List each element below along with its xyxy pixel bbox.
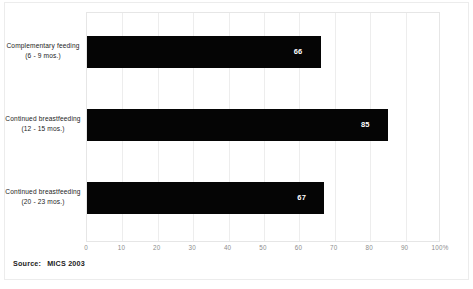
category-label-line1: Continued breastfeeding xyxy=(5,115,80,122)
x-tick-label: 20 xyxy=(153,244,160,251)
category-label: Continued breastfeeding(12 - 15 mos.) xyxy=(2,114,84,134)
source-label: Source: xyxy=(13,259,41,268)
bar-row: 66 xyxy=(87,36,441,68)
category-label: Complementary feeding(6 - 9 mos.) xyxy=(2,41,84,61)
x-tick-label: 70 xyxy=(330,244,337,251)
category-label: Continued breastfeeding(20 - 23 mos.) xyxy=(2,187,84,207)
x-tick-label: 90 xyxy=(401,244,408,251)
bar[interactable] xyxy=(87,182,324,214)
bar-value-label: 85 xyxy=(361,109,370,141)
bar-value-label: 67 xyxy=(297,182,306,214)
category-label-line2: (12 - 15 mos.) xyxy=(2,124,84,134)
bars-layer: 668567 xyxy=(87,13,439,241)
source-note: Source:MICS 2003 xyxy=(13,259,85,268)
bar-value-label: 66 xyxy=(294,36,303,68)
bar-row: 85 xyxy=(87,109,441,141)
x-tick-label: 10 xyxy=(118,244,125,251)
x-tick-label: 0 xyxy=(84,244,88,251)
x-tick-label: 30 xyxy=(188,244,195,251)
bar[interactable] xyxy=(87,36,321,68)
category-label-line1: Complementary feeding xyxy=(6,42,79,49)
plot-area: 668567 xyxy=(86,12,440,242)
chart-figure: 668567 Complementary feeding(6 - 9 mos.)… xyxy=(0,0,473,289)
x-axis: 0102030405060708090100% xyxy=(86,244,440,258)
bar[interactable] xyxy=(87,109,388,141)
category-label-line2: (20 - 23 mos.) xyxy=(2,197,84,207)
x-tick-label: 40 xyxy=(224,244,231,251)
category-label-line2: (6 - 9 mos.) xyxy=(2,51,84,61)
category-label-line1: Continued breastfeeding xyxy=(5,188,80,195)
source-value: MICS 2003 xyxy=(47,259,85,268)
x-tick-label: 100% xyxy=(432,244,449,251)
bar-row: 67 xyxy=(87,182,441,214)
x-tick-label: 50 xyxy=(259,244,266,251)
x-tick-label: 60 xyxy=(295,244,302,251)
x-tick-label: 80 xyxy=(365,244,372,251)
